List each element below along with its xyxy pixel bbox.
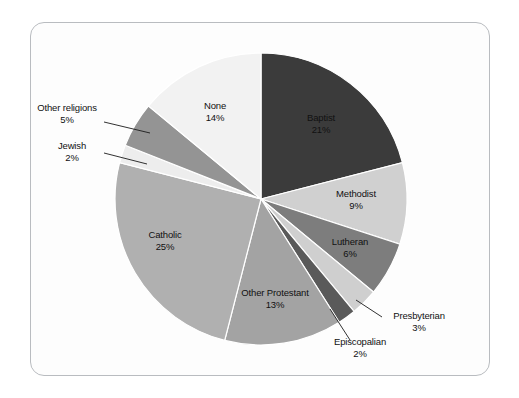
- slice-label-none: None 14%: [188, 100, 242, 123]
- slice-label-other-religions-pct: 5%: [30, 114, 104, 126]
- slice-label-methodist: Methodist 9%: [320, 188, 392, 211]
- slice-label-other-protestant-pct: 13%: [220, 299, 330, 311]
- slice-label-lutheran: Lutheran 6%: [318, 236, 382, 259]
- slice-label-lutheran-pct: 6%: [318, 248, 382, 260]
- slice-label-other-religions: Other religions 5%: [30, 102, 104, 125]
- slice-label-presbyterian: Presbyterian 3%: [375, 310, 463, 333]
- slice-label-jewish-pct: 2%: [42, 152, 102, 164]
- pie-chart: Baptist 21% Methodist 9% Lutheran 6% Pre…: [0, 0, 519, 398]
- pie-chart-svg: [0, 0, 519, 398]
- slice-label-catholic: Catholic 25%: [132, 229, 198, 252]
- slice-label-none-pct: 14%: [188, 112, 242, 124]
- slice-label-methodist-name: Methodist: [320, 188, 392, 200]
- slice-label-baptist: Baptist 21%: [294, 112, 348, 135]
- slice-label-catholic-pct: 25%: [132, 241, 198, 253]
- slice-label-other-protestant: Other Protestant 13%: [220, 287, 330, 310]
- slice-label-other-religions-name: Other religions: [30, 102, 104, 114]
- slice-label-none-name: None: [188, 100, 242, 112]
- slice-label-baptist-pct: 21%: [294, 124, 348, 136]
- slice-label-catholic-name: Catholic: [132, 229, 198, 241]
- slice-label-presbyterian-name: Presbyterian: [375, 310, 463, 322]
- slice-label-other-protestant-name: Other Protestant: [220, 287, 330, 299]
- slice-label-jewish-name: Jewish: [42, 140, 102, 152]
- slice-label-jewish: Jewish 2%: [42, 140, 102, 163]
- slice-label-episcopalian-name: Episcopalian: [318, 336, 402, 348]
- slice-label-presbyterian-pct: 3%: [375, 322, 463, 334]
- slice-label-baptist-name: Baptist: [294, 112, 348, 124]
- screenshot-root: Baptist 21% Methodist 9% Lutheran 6% Pre…: [0, 0, 519, 398]
- slice-label-episcopalian-pct: 2%: [318, 348, 402, 360]
- slice-label-lutheran-name: Lutheran: [318, 236, 382, 248]
- slice-label-episcopalian: Episcopalian 2%: [318, 336, 402, 359]
- slice-label-methodist-pct: 9%: [320, 200, 392, 212]
